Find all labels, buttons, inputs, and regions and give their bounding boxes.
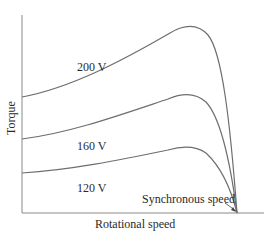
y-axis-title: Torque	[4, 101, 18, 135]
curve-200v	[22, 26, 237, 213]
sync-speed-label: Synchronous speed	[142, 192, 235, 206]
x-axis-title: Rotational speed	[95, 217, 175, 231]
label-160v: 160 V	[77, 139, 107, 153]
label-200v: 200 V	[77, 60, 107, 74]
label-120v: 120 V	[77, 181, 107, 195]
torque-speed-diagram: 200 V 160 V 120 V Synchronous speed Rota…	[0, 0, 272, 236]
